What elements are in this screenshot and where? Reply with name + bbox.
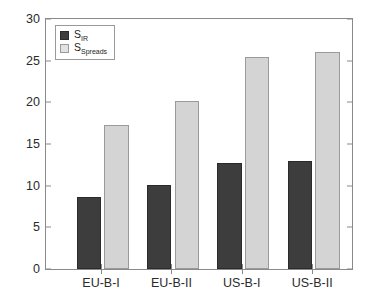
y-tick-label: 25 <box>26 54 40 68</box>
x-tick-mark-top <box>171 269 172 274</box>
x-tick-label: EU-B-II <box>151 276 192 290</box>
legend-swatch-icon <box>60 31 69 40</box>
y-tick-mark-right <box>347 19 352 20</box>
y-tick-mark <box>46 269 51 270</box>
y-tick-mark-right <box>347 60 352 61</box>
y-tick-mark-right <box>347 102 352 103</box>
bar-eu-b-i-s-ir <box>77 197 101 269</box>
x-tick-label: US-B-I <box>223 276 261 290</box>
y-tick-mark-right <box>347 185 352 186</box>
bar-us-b-ii-s-ir <box>288 161 312 269</box>
chart-figure: 0 5 10 15 20 <box>0 0 366 302</box>
y-tick-label: 0 <box>33 262 40 276</box>
legend-swatch-icon <box>60 44 69 53</box>
bar-us-b-ii-s-spreads <box>315 52 339 269</box>
x-tick-label: EU-B-I <box>82 276 120 290</box>
x-tick-mark-top <box>101 269 102 274</box>
y-tick-mark <box>46 144 51 145</box>
chart-legend: SIR SSpreads <box>55 25 115 60</box>
y-tick-mark-right <box>347 269 352 270</box>
plot-area: 0 5 10 15 20 <box>45 18 353 270</box>
legend-label-s-spreads: SSpreads <box>74 42 107 55</box>
y-tick-mark <box>46 102 51 103</box>
y-tick-mark-right <box>347 144 352 145</box>
x-tick-mark-top <box>312 269 313 274</box>
bar-us-b-i-s-ir <box>217 163 241 269</box>
y-tick-mark <box>46 60 51 61</box>
y-tick-label: 5 <box>33 220 40 234</box>
y-tick-mark <box>46 227 51 228</box>
bar-eu-b-ii-s-ir <box>147 185 171 269</box>
y-tick-label: 15 <box>26 137 40 151</box>
x-tick-label: US-B-II <box>292 276 333 290</box>
y-tick-label: 20 <box>26 95 40 109</box>
y-tick-mark <box>46 185 51 186</box>
y-tick-mark-right <box>347 227 352 228</box>
legend-entry-s-ir: SIR <box>60 29 107 42</box>
legend-entry-s-spreads: SSpreads <box>60 42 107 55</box>
x-tick-mark-top <box>242 269 243 274</box>
y-tick-label: 10 <box>26 179 40 193</box>
bar-us-b-i-s-spreads <box>245 57 269 270</box>
bar-eu-b-ii-s-spreads <box>175 101 199 269</box>
y-tick-mark <box>46 19 51 20</box>
bar-eu-b-i-s-spreads <box>104 125 128 269</box>
y-tick-label: 30 <box>26 12 40 26</box>
